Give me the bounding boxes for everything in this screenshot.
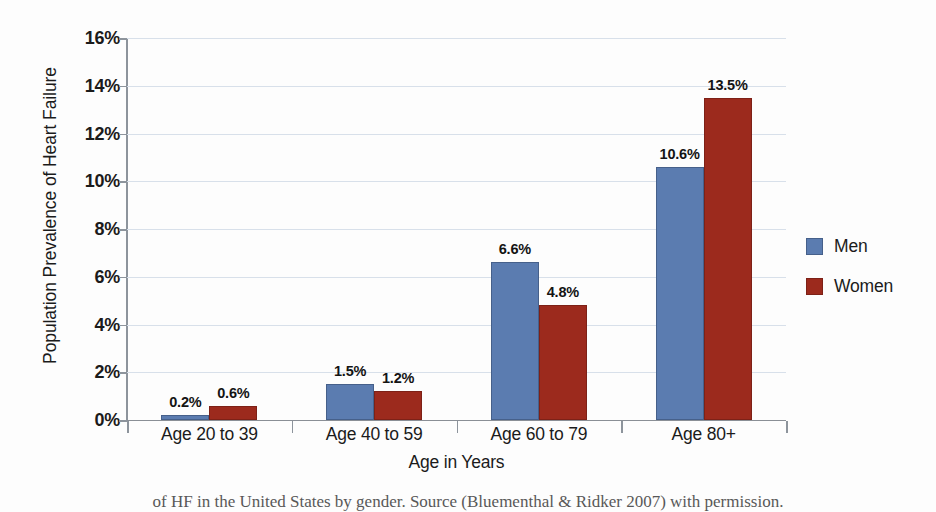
y-axis-tick-label: 0%	[50, 410, 120, 431]
legend-swatch-icon	[806, 238, 823, 255]
y-axis-tick-mark	[119, 134, 127, 136]
bar-men-age-20-to-39[interactable]	[161, 415, 209, 420]
bar-men-age-40-to-59[interactable]	[326, 384, 374, 420]
y-axis-tick-label: 2%	[50, 362, 120, 383]
gridline	[127, 134, 786, 135]
x-axis-tick-mark	[292, 421, 294, 433]
x-axis-category-label: Age 20 to 39	[127, 424, 292, 445]
legend-swatch-icon	[806, 278, 823, 295]
legend-item-men[interactable]: Men	[806, 236, 893, 256]
bar-value-label: 13.5%	[690, 77, 766, 93]
y-axis-tick-mark	[119, 372, 127, 374]
legend-item-women[interactable]: Women	[806, 276, 893, 296]
legend-label: Women	[834, 276, 893, 297]
y-axis-tick-mark	[119, 181, 127, 183]
y-axis-tick-mark	[119, 325, 127, 327]
bar-value-label: 1.2%	[360, 370, 436, 386]
x-axis-tick-mark	[621, 421, 623, 433]
y-axis-tick-labels: 0%2%4%6%8%10%12%14%16%	[44, 0, 120, 512]
gridline	[127, 38, 786, 39]
legend-label: Men	[834, 236, 867, 257]
x-axis-category-label: Age 40 to 59	[292, 424, 457, 445]
y-axis-tick-label: 12%	[50, 123, 120, 144]
x-axis-tick-mark	[127, 421, 129, 433]
y-axis-tick-mark	[119, 277, 127, 279]
x-axis-category-label: Age 80+	[621, 424, 786, 445]
y-axis-tick-mark	[119, 86, 127, 88]
x-axis-category-label: Age 60 to 79	[457, 424, 622, 445]
bar-women-age-60-to-79[interactable]	[539, 305, 587, 420]
x-axis-title: Age in Years	[127, 452, 786, 473]
bar-men-age-80-[interactable]	[656, 167, 704, 420]
chart-legend: MenWomen	[806, 236, 893, 316]
y-axis-tick-mark	[119, 38, 127, 40]
y-axis-tick-label: 8%	[50, 219, 120, 240]
y-axis-tick-label: 14%	[50, 75, 120, 96]
y-axis-tick-mark	[119, 229, 127, 231]
y-axis-tick-label: 10%	[50, 171, 120, 192]
x-axis-tick-mark	[786, 421, 788, 433]
bar-value-label: 0.6%	[195, 385, 271, 401]
y-axis-tick-mark	[119, 420, 127, 422]
gridline	[127, 86, 786, 87]
y-axis-tick-label: 4%	[50, 314, 120, 335]
bar-women-age-80-[interactable]	[704, 98, 752, 420]
y-axis-tick-label: 16%	[50, 28, 120, 49]
x-axis-tick-mark	[457, 421, 459, 433]
bar-value-label: 4.8%	[525, 284, 601, 300]
figure-caption: of HF in the United States by gender. So…	[0, 492, 936, 512]
chart-figure: Population Prevalence of Heart Failure 0…	[0, 0, 936, 512]
y-axis-tick-label: 6%	[50, 266, 120, 287]
bar-women-age-20-to-39[interactable]	[209, 406, 257, 420]
plot-area: 0.2%0.6%1.5%1.2%6.6%4.8%10.6%13.5%	[127, 38, 786, 420]
bar-women-age-40-to-59[interactable]	[374, 391, 422, 420]
bar-value-label: 6.6%	[477, 241, 553, 257]
